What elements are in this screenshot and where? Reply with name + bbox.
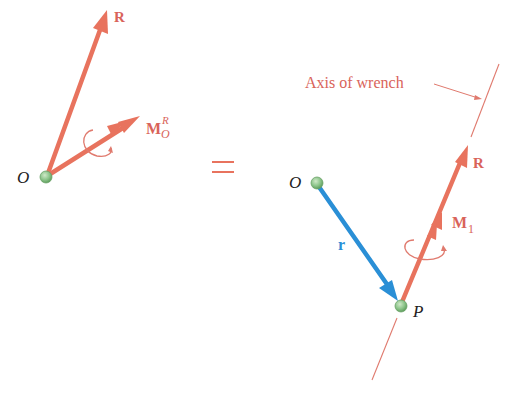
axis-of-wrench-label: Axis of wrench [305, 74, 404, 91]
force-label-R-right: R [473, 155, 484, 171]
point-O-left [40, 171, 52, 183]
svg-text:R: R [161, 114, 169, 126]
point-P [395, 300, 407, 312]
equals-sign [212, 162, 234, 172]
origin-label-O-right: O [289, 173, 301, 192]
position-vector-r [317, 184, 398, 301]
point-O-right [311, 177, 323, 189]
right-system: Axis of wrench R M 1 r [289, 64, 499, 380]
position-label-r: r [338, 236, 345, 253]
force-vector-R-left [47, 10, 108, 176]
moment-vector-MO-left [47, 116, 140, 176]
wrench-axis-lower [372, 318, 397, 380]
moment-label-M1-right: M 1 [452, 214, 474, 236]
point-label-P: P [412, 302, 423, 321]
svg-text:M: M [452, 214, 467, 231]
left-system: R M R O O [17, 9, 170, 187]
svg-text:M: M [146, 120, 161, 137]
wrench-axis-upper [471, 64, 499, 137]
wrench-diagram: R M R O O Axis of wrench [0, 0, 505, 397]
svg-text:O: O [161, 127, 170, 141]
origin-label-O-left: O [17, 168, 29, 187]
moment-vector-M1-right [427, 212, 442, 240]
axis-leader-arrow [434, 84, 482, 100]
moment-label-MO-left: M R O [146, 114, 170, 141]
force-label-R-left: R [114, 9, 125, 25]
svg-text:1: 1 [468, 222, 474, 236]
